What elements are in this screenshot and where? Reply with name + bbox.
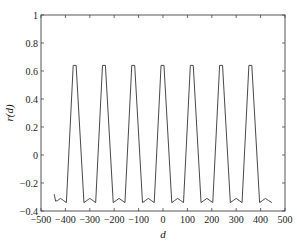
line-chart: −500−400−300−200−1000100200300400500 −0.…	[0, 0, 297, 248]
y-tick-label: 1	[33, 10, 38, 21]
x-tick-label: 500	[278, 214, 293, 225]
y-tick-label: −0.4	[20, 206, 38, 217]
x-tick-label: 300	[229, 214, 244, 225]
y-tick-label: −0.2	[20, 178, 38, 189]
x-tick-label: −100	[128, 214, 149, 225]
y-tick-label: 0.4	[26, 94, 39, 105]
x-tick-label: −400	[55, 214, 76, 225]
y-tick-label: 0.8	[26, 38, 39, 49]
y-axis-label: r(d)	[3, 104, 16, 121]
x-tick-label: 200	[204, 214, 219, 225]
x-tick-label: 0	[161, 214, 166, 225]
plot-background	[41, 15, 285, 211]
x-tick-labels: −500−400−300−200−1000100200300400500	[31, 214, 293, 225]
y-tick-label: 0.2	[26, 122, 39, 133]
x-tick-label: −200	[104, 214, 125, 225]
x-tick-label: 400	[253, 214, 268, 225]
y-tick-labels: −0.4−0.200.20.40.60.81	[20, 10, 38, 217]
x-axis-label: d	[160, 228, 166, 240]
y-tick-label: 0	[33, 150, 38, 161]
x-tick-label: −300	[79, 214, 100, 225]
y-tick-label: 0.6	[26, 66, 39, 77]
x-tick-label: 100	[180, 214, 195, 225]
